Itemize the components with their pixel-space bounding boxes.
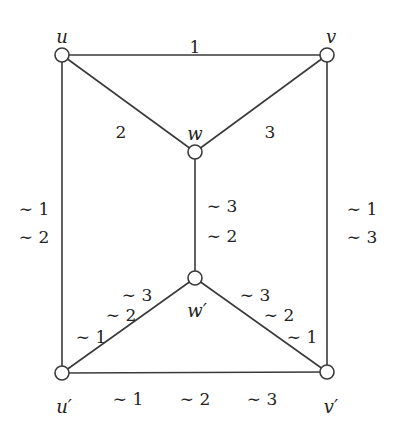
edge-label: ∼ 3 <box>247 389 277 409</box>
node-vp <box>320 365 334 379</box>
edge-label: ∼ 3 <box>347 227 377 247</box>
graph-diagram: 123∼ 3∼ 2∼ 1∼ 2∼ 1∼ 3∼ 3∼ 2∼ 1∼ 3∼ 2∼ 1∼… <box>0 0 399 429</box>
edge-up-vp <box>62 372 327 373</box>
edge-label: ∼ 1 <box>113 389 143 409</box>
node-label-u: u <box>56 26 68 47</box>
edge-label: ∼ 2 <box>180 389 210 409</box>
edge-label: ∼ 2 <box>19 227 49 247</box>
node-v <box>320 48 334 62</box>
node-labels-layer: uvww′u′v′ <box>56 26 338 417</box>
node-label-up: u′ <box>56 396 72 417</box>
edge-label: 1 <box>190 37 201 57</box>
edge-label: ∼ 3 <box>240 285 270 305</box>
edge-label: ∼ 3 <box>207 196 237 216</box>
edge-label: ∼ 1 <box>19 199 49 219</box>
edge-label: 3 <box>265 122 276 142</box>
edge-v-w <box>195 55 327 152</box>
node-label-v: v <box>326 26 336 47</box>
edge-label: 2 <box>116 122 127 142</box>
node-label-wp: w′ <box>187 300 207 321</box>
edge-u-w <box>62 55 195 152</box>
node-u <box>55 48 69 62</box>
node-label-vp: v′ <box>324 396 338 417</box>
edge-label: ∼ 2 <box>106 305 136 325</box>
edge-labels-layer: 123∼ 3∼ 2∼ 1∼ 2∼ 1∼ 3∼ 3∼ 2∼ 1∼ 3∼ 2∼ 1∼… <box>19 37 377 409</box>
edges-layer <box>62 55 327 373</box>
edge-label: ∼ 1 <box>347 199 377 219</box>
edge-label: ∼ 2 <box>264 305 294 325</box>
edge-label: ∼ 3 <box>122 285 152 305</box>
node-wp <box>188 271 202 285</box>
edge-label: ∼ 1 <box>76 327 106 347</box>
node-w <box>188 145 202 159</box>
node-up <box>55 366 69 380</box>
node-label-w: w <box>187 123 203 144</box>
edge-label: ∼ 2 <box>207 226 237 246</box>
edge-label: ∼ 1 <box>287 327 317 347</box>
